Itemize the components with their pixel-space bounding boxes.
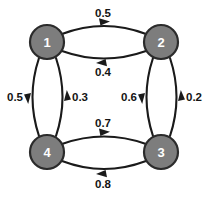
edge-3-to-4: 0.8 <box>62 161 146 190</box>
node-2[interactable]: 2 <box>144 25 178 59</box>
edge-1-to-2: 0.5 <box>62 7 146 34</box>
graph-canvas: 0.5 0.4 0.5 0.3 0.6 <box>0 0 209 197</box>
node-3-label: 3 <box>157 145 164 160</box>
edge-4-to-1-arrowhead <box>64 90 71 101</box>
edge-2-to-1: 0.4 <box>62 51 146 78</box>
node-3[interactable]: 3 <box>144 135 178 169</box>
edge-1-to-2-path <box>62 26 146 34</box>
edge-1-to-4-path <box>33 58 40 136</box>
edge-4-to-3-path <box>62 137 146 145</box>
edge-1-to-4-weight: 0.5 <box>7 91 24 103</box>
node-1-label: 1 <box>43 35 50 50</box>
edge-3-to-2-weight: 0.2 <box>186 91 202 103</box>
node-4-label: 4 <box>43 145 51 160</box>
node-2-label: 2 <box>157 35 164 50</box>
node-4[interactable]: 4 <box>30 135 64 169</box>
edge-2-to-1-weight: 0.4 <box>95 66 112 78</box>
edge-2-to-3-path <box>147 58 154 136</box>
edge-1-to-4: 0.5 <box>7 58 39 136</box>
edge-3-to-2-arrowhead <box>178 90 185 101</box>
edge-1-to-2-arrowhead <box>99 18 110 25</box>
edge-2-to-3: 0.6 <box>121 58 153 136</box>
edge-2-to-3-weight: 0.6 <box>121 91 137 103</box>
edge-3-to-4-arrowhead <box>96 170 107 177</box>
edge-2-to-1-path <box>62 51 146 59</box>
edge-3-to-2-path <box>170 58 177 136</box>
edge-2-to-3-arrowhead <box>138 93 145 104</box>
edge-3-to-4-path <box>62 161 146 169</box>
edge-3-to-4-weight: 0.8 <box>95 178 112 190</box>
edge-1-to-2-weight: 0.5 <box>95 7 112 19</box>
edge-4-to-3: 0.7 <box>62 117 146 144</box>
node-1[interactable]: 1 <box>30 25 64 59</box>
edge-4-to-1: 0.3 <box>56 58 88 136</box>
graph-diagram: 0.5 0.4 0.5 0.3 0.6 <box>0 0 209 197</box>
edge-4-to-1-weight: 0.3 <box>72 91 88 103</box>
edge-3-to-2: 0.2 <box>170 58 202 136</box>
edge-4-to-1-path <box>56 58 63 136</box>
edge-4-to-3-weight: 0.7 <box>95 117 111 129</box>
edge-1-to-4-arrowhead <box>24 93 31 104</box>
edge-4-to-3-arrowhead <box>99 129 110 136</box>
